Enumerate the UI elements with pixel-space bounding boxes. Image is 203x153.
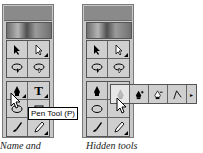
tool-grid-top [86, 40, 130, 78]
toolbox-panel-right [82, 4, 134, 138]
hidden-tools-indicator [44, 94, 48, 98]
lasso-icon [33, 62, 45, 74]
ellipse-icon [91, 103, 103, 115]
lasso-icon [91, 62, 103, 74]
convert-anchor-icon [172, 89, 183, 100]
brush-tool-button[interactable] [7, 118, 28, 136]
flyout-add-anchor-tool[interactable] [130, 85, 149, 103]
pencil-icon [113, 121, 125, 133]
left-caption: Name and [0, 140, 41, 151]
ellipse-tool-button[interactable] [87, 100, 108, 118]
magnetic-lasso-tool-button[interactable] [108, 59, 129, 77]
flyout-more-arrow[interactable]: ▸ [187, 85, 196, 103]
hidden-tools-indicator [44, 53, 48, 57]
mouse-pointer-icon [10, 92, 22, 110]
toolbox-titlebar[interactable] [4, 6, 52, 21]
flyout-delete-anchor-tool[interactable] [149, 85, 168, 103]
brush-icon [11, 121, 23, 133]
selection-tool-button[interactable] [7, 41, 28, 59]
pen-tool-button[interactable] [87, 82, 108, 100]
arrow-icon [11, 44, 23, 56]
magnetic-lasso-tool-button[interactable] [28, 59, 49, 77]
direct-selection-tool-button[interactable] [108, 41, 129, 59]
lasso-icon [11, 62, 23, 74]
lasso-tool-button[interactable] [87, 59, 108, 77]
right-caption: Hidden tools [86, 140, 137, 151]
mouse-pointer-icon [116, 97, 128, 115]
pencil-tool-button[interactable] [28, 118, 49, 136]
pencil-icon [33, 121, 45, 133]
type-icon: T [34, 83, 43, 99]
hidden-tools-indicator [22, 94, 26, 98]
flyout-convert-anchor-tool[interactable] [168, 85, 187, 103]
hollow-arrow-icon [33, 44, 45, 56]
hidden-tools-indicator [124, 53, 128, 57]
toolbox-logo-image[interactable] [6, 22, 52, 39]
type-tool-button[interactable]: T [28, 82, 49, 100]
lasso-icon [113, 62, 125, 74]
brush-icon [91, 121, 103, 133]
selection-tool-button[interactable] [87, 41, 108, 59]
pen-tool-tooltip: Pen Tool (P) [28, 107, 78, 120]
toolbox-titlebar[interactable] [84, 6, 132, 21]
tool-grid-top [6, 40, 50, 78]
pencil-tool-button[interactable] [108, 118, 129, 136]
direct-selection-tool-button[interactable] [28, 41, 49, 59]
hidden-tools-indicator [44, 131, 48, 135]
pen-icon [91, 85, 103, 97]
hollow-arrow-icon [113, 44, 125, 56]
pen-plus-icon [134, 89, 145, 100]
lasso-tool-button[interactable] [7, 59, 28, 77]
toolbox-logo-image[interactable] [86, 22, 132, 39]
hidden-tools-indicator [124, 131, 128, 135]
brush-tool-button[interactable] [87, 118, 108, 136]
pen-minus-icon [153, 89, 164, 100]
arrow-icon [91, 44, 103, 56]
